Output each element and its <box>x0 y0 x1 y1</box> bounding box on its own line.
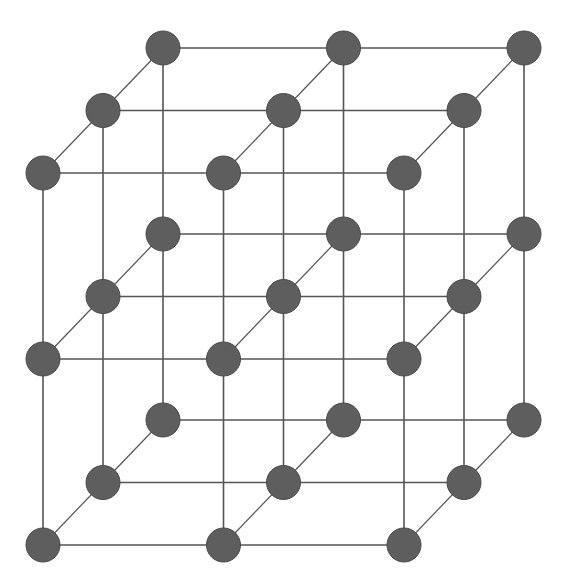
lattice-diagram <box>0 0 569 578</box>
lattice-node-0-2-0 <box>26 156 60 190</box>
lattice-node-1-2-0 <box>207 156 241 190</box>
lattice-node-1-1-0 <box>207 342 241 376</box>
lattice-node-2-1-2 <box>507 217 541 251</box>
lattice-node-2-0-2 <box>507 403 541 437</box>
lattice-node-1-0-0 <box>207 528 241 562</box>
lattice-node-1-0-2 <box>327 403 361 437</box>
lattice-node-0-1-2 <box>146 217 180 251</box>
lattice-node-0-0-1 <box>86 466 120 500</box>
lattice-node-2-0-0 <box>387 528 421 562</box>
lattice-node-1-0-1 <box>267 466 301 500</box>
lattice-node-0-2-1 <box>86 94 120 128</box>
cubic-lattice-svg <box>0 0 569 578</box>
lattice-node-0-0-0 <box>26 528 60 562</box>
lattice-node-2-2-2 <box>507 31 541 65</box>
lattice-node-2-2-0 <box>387 156 421 190</box>
lattice-node-1-2-2 <box>327 31 361 65</box>
lattice-node-2-2-1 <box>447 94 481 128</box>
lattice-node-1-1-1 <box>267 280 301 314</box>
lattice-node-1-1-2 <box>327 217 361 251</box>
lattice-node-1-2-1 <box>267 94 301 128</box>
lattice-node-2-0-1 <box>447 466 481 500</box>
lattice-nodes <box>26 31 541 562</box>
lattice-node-2-1-1 <box>447 280 481 314</box>
lattice-node-0-0-2 <box>146 403 180 437</box>
lattice-node-2-1-0 <box>387 342 421 376</box>
lattice-node-0-1-1 <box>86 280 120 314</box>
lattice-node-0-1-0 <box>26 342 60 376</box>
lattice-node-0-2-2 <box>146 31 180 65</box>
